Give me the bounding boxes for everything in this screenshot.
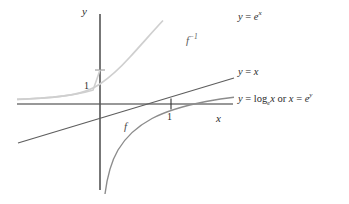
log-label-conjunction: or xyxy=(275,93,289,104)
log-label-alt-exponent: y xyxy=(309,91,312,99)
f-function-label: f xyxy=(124,121,127,132)
f-inverse-exponent: −1 xyxy=(189,32,198,41)
log-label-eq: = xyxy=(243,93,254,104)
exponential-curve-label: y = ex xyxy=(238,10,262,22)
identity-label-eq: = xyxy=(243,66,254,77)
x-tick-one-label: 1 xyxy=(167,112,172,122)
exponential-label-eq: = xyxy=(243,11,254,22)
exponential-label-exponent: x xyxy=(259,9,262,17)
x-axis-label: x xyxy=(216,113,221,124)
log-label-log: log xyxy=(254,93,267,104)
identity-line xyxy=(18,78,234,143)
logarithm-curve-label: y = logex or x = ey xyxy=(238,92,313,106)
function-graph-figure: y x 1 1 y = ex f−1 y = x y = logex or x … xyxy=(0,0,349,204)
exponential-curve-true xyxy=(17,21,163,100)
y-tick-one-label: 1 xyxy=(84,81,89,91)
identity-label-rhs: x xyxy=(254,66,259,77)
f-inverse-label: f−1 xyxy=(186,33,198,46)
log-label-alt-eq: = xyxy=(294,93,305,104)
y-axis-label: y xyxy=(82,6,87,17)
identity-line-label: y = x xyxy=(238,67,259,78)
